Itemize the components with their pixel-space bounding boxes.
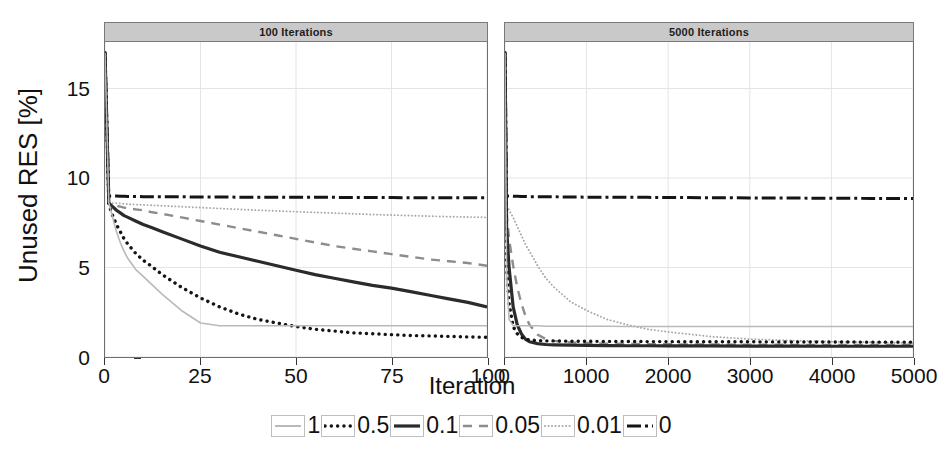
legend-label: 0 (657, 414, 673, 437)
legend-key-solid-light-icon (271, 415, 305, 437)
legend-label: 1 (305, 414, 321, 437)
panel-5000-iterations: 5000 Iterations (504, 22, 914, 358)
series-line-0_1 (505, 53, 913, 347)
chart-figure: Unused RES [%] 051015 100 Iterations 500… (0, 0, 944, 472)
legend-key-solid-dark-icon (390, 415, 424, 437)
legend-item-0[interactable]: 0 (623, 414, 673, 437)
y-tick-label: 10 (44, 166, 90, 190)
y-axis-title: Unused RES [%] (13, 36, 44, 336)
legend-key-dashed-icon (459, 415, 493, 437)
series-line-1 (505, 53, 913, 327)
legend-item-1[interactable]: 1 (271, 414, 321, 437)
y-axis-tick-labels: 051015 (44, 42, 90, 358)
panel-strip-label-right: 5000 Iterations (504, 22, 914, 42)
legend-label: 0.01 (575, 414, 623, 437)
legend-key-dotted-fine-icon (541, 415, 575, 437)
plot-lines-right (505, 42, 913, 357)
legend-item-0_05[interactable]: 0.05 (459, 414, 541, 437)
y-tick-label: 15 (44, 77, 90, 101)
plot-lines-left (105, 42, 487, 357)
panel-100-iterations: 100 Iterations (104, 22, 488, 358)
legend-key-dotted-bold-icon (321, 415, 355, 437)
legend-item-0_1[interactable]: 0.1 (390, 414, 459, 437)
series-line-0_05 (505, 53, 913, 345)
legend-item-0_01[interactable]: 0.01 (541, 414, 623, 437)
legend-label: 0.5 (355, 414, 390, 437)
plot-area-left (104, 42, 488, 358)
legend-key-dashdot-icon (623, 415, 657, 437)
panel-strip-label-left: 100 Iterations (104, 22, 488, 42)
legend-item-0_5[interactable]: 0.5 (321, 414, 390, 437)
series-line-0 (505, 53, 913, 199)
legend-label: 0.05 (493, 414, 541, 437)
y-tick-label: 0 (44, 346, 90, 370)
plot-area-right (504, 42, 914, 358)
y-tick-label: 5 (44, 256, 90, 280)
chart-legend: 10.50.10.050.010 (0, 414, 944, 437)
x-axis-title: Iteration (0, 372, 944, 400)
legend-label: 0.1 (424, 414, 459, 437)
